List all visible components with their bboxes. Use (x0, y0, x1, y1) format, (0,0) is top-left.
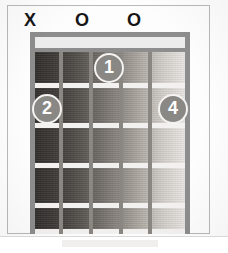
string-3 (89, 46, 93, 234)
string-1 (30, 46, 35, 234)
chord-diagram: X O O 1 2 4 (0, 0, 228, 253)
fret-line-5 (32, 229, 188, 234)
string-markers-row: X O O (0, 9, 228, 31)
string-marker-muted-1: X (20, 9, 41, 31)
nut-bar (30, 32, 190, 52)
fret-line-2 (32, 123, 188, 128)
finger-dot-1: 1 (94, 53, 124, 83)
string-5 (148, 46, 152, 234)
string-2 (59, 46, 63, 234)
fret-line-4 (32, 203, 188, 208)
string-marker-open-5: O (124, 9, 145, 31)
string-6 (185, 46, 190, 234)
page-bottom-smudge (62, 240, 158, 247)
fret-line-3 (32, 163, 188, 168)
string-marker-open-3: O (72, 9, 93, 31)
finger-dot-2: 2 (32, 94, 62, 124)
fret-line-1 (32, 83, 188, 88)
finger-dot-4: 4 (158, 94, 188, 124)
